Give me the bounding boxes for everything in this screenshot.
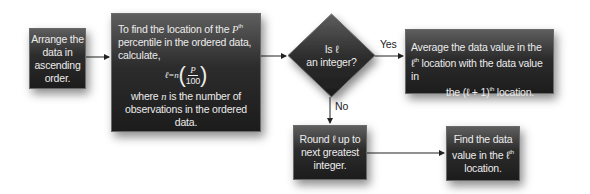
round-line-1: Round ℓ up to <box>300 133 361 146</box>
no-label: No <box>335 100 348 112</box>
location-formula: ℓ=n ( P 100 ) <box>118 64 254 86</box>
decision-diamond: Is ℓ an integer? <box>288 14 375 97</box>
round-line-3: integer. <box>314 159 347 172</box>
yes-label: Yes <box>380 38 397 50</box>
step-average-box: Average the data value in the ℓth locati… <box>405 29 554 94</box>
average-line-2: ℓth location with the data value in <box>411 54 549 83</box>
step-arrange-line-2: data in <box>42 46 72 59</box>
step-find-box: Find the data value in the ℓth location. <box>446 126 520 181</box>
step-arrange-box: Arrange the data in ascending order. <box>29 28 86 89</box>
formula-lhs: ℓ=n <box>165 69 179 82</box>
decision-text: Is ℓ an integer? <box>288 14 375 97</box>
compute-where-line: where n is the number of <box>118 90 254 103</box>
find-line-2: value in the ℓth <box>452 146 514 162</box>
average-line-3: the (ℓ + 1)th location. <box>411 83 549 99</box>
find-line-1: Find the data <box>454 133 513 146</box>
compute-line-1: To find the location of the Pth <box>118 20 254 36</box>
step-arrange-line-3: ascending <box>34 59 80 72</box>
compute-line-3: calculate, <box>118 49 254 62</box>
step-compute-box: To find the location of the Pth percenti… <box>111 13 261 132</box>
find-line-3: location. <box>464 162 501 175</box>
fraction: P 100 <box>186 65 200 86</box>
round-line-2: next greatest <box>301 146 359 159</box>
left-paren: ( <box>179 64 186 86</box>
fraction-numerator: P <box>188 65 197 76</box>
right-paren: ) <box>200 64 207 86</box>
compute-line-2: percentile in the ordered data, <box>118 36 254 49</box>
step-round-box: Round ℓ up to next greatest integer. <box>293 125 367 180</box>
step-arrange-line-4: order. <box>45 72 71 85</box>
fraction-denominator: 100 <box>186 76 200 86</box>
decision-line-1: Is ℓ <box>325 43 339 56</box>
step-arrange-line-1: Arrange the <box>31 33 84 46</box>
compute-where-line-2: observations in the ordered data. <box>118 103 254 129</box>
average-line-1: Average the data value in the <box>411 41 549 54</box>
decision-line-2: an integer? <box>306 56 356 69</box>
